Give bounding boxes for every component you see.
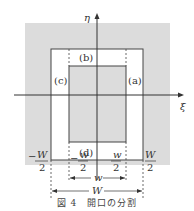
eta-axis-arrow-icon (95, 13, 100, 19)
svg-text:w: w (80, 149, 89, 160)
svg-text:w: w (113, 149, 122, 160)
region-label-c: (c) (54, 75, 68, 86)
svg-text:w: w (94, 172, 103, 183)
region-label-b: (b) (79, 52, 93, 63)
svg-text:−: − (70, 153, 78, 164)
dimension-inner-width: w (70, 172, 125, 183)
xi-axis-label: ξ (180, 101, 186, 112)
tick-pos-W-half: W 2 (145, 149, 156, 173)
svg-text:W: W (145, 149, 156, 160)
svg-text:2: 2 (147, 162, 153, 173)
svg-text:W: W (92, 185, 103, 196)
eta-axis-label: η (84, 12, 90, 23)
svg-text:2: 2 (39, 162, 45, 173)
tick-neg-w-half: − w 2 (70, 149, 89, 173)
svg-text:W: W (37, 149, 48, 160)
tick-neg-W-half: − W 2 (28, 149, 48, 173)
tick-pos-w-half: w 2 (111, 149, 122, 173)
xi-axis-arrow-icon (178, 93, 184, 98)
svg-text:2: 2 (80, 162, 86, 173)
aperture-division-diagram: ξ η (b) (c) (a) (d) − W 2 − w 2 w 2 W 2 … (0, 0, 194, 211)
region-label-a: (a) (128, 75, 142, 86)
svg-text:2: 2 (113, 162, 119, 173)
figure-caption: 図 4 開口の分割 (0, 196, 194, 209)
dimension-outer-width: W (52, 185, 142, 196)
svg-text:−: − (28, 151, 36, 162)
